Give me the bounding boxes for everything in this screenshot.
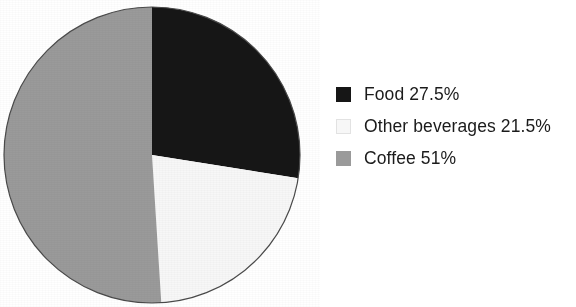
- pie-chart-figure: Food 27.5% Other beverages 21.5% Coffee …: [0, 0, 576, 307]
- pie-slice-coffee: [4, 7, 161, 303]
- legend-swatch-coffee: [336, 151, 351, 166]
- pie-slice-food: [152, 7, 300, 178]
- chart-legend: Food 27.5% Other beverages 21.5% Coffee …: [336, 78, 574, 174]
- legend-label-other-beverages: Other beverages 21.5%: [364, 116, 551, 136]
- pie-chart-plot-area: [0, 0, 320, 307]
- legend-swatch-other-beverages: [336, 119, 351, 134]
- legend-item-other-beverages: Other beverages 21.5%: [336, 110, 574, 142]
- legend-item-food: Food 27.5%: [336, 78, 574, 110]
- legend-item-coffee: Coffee 51%: [336, 142, 574, 174]
- pie-slice-other-beverages: [152, 155, 298, 303]
- pie-chart-svg: [0, 0, 320, 307]
- legend-swatch-food: [336, 87, 351, 102]
- legend-label-food: Food 27.5%: [364, 84, 459, 104]
- pie-slices-group: [4, 7, 300, 303]
- legend-label-coffee: Coffee 51%: [364, 148, 456, 168]
